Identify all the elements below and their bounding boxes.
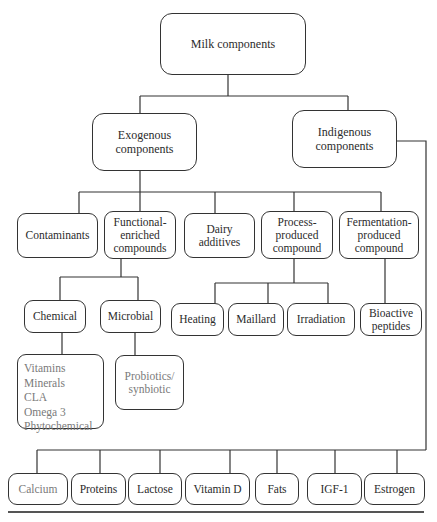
node-label: Probiotics/ synbiotic [125,370,175,396]
node-chemical: Chemical [24,300,86,333]
node-label: Exogenous components [116,128,174,156]
node-label: Vitamin D [193,483,241,496]
bottom-rule-divider [8,511,424,513]
node-lactose: Lactose [128,473,182,505]
node-igf-1: IGF-1 [307,473,362,505]
node-process-produced-compound: Process- produced compound [261,211,333,259]
node-label: Fats [267,483,286,496]
node-chemical-items: Vitamins Minerals CLA Omega 3 Phytochemi… [17,354,104,429]
node-fats: Fats [255,473,299,505]
node-label: Process- produced compound [273,216,322,255]
node-label: Irradiation [297,313,346,326]
node-label: Functional- enriched compounds [113,216,166,255]
node-label: Calcium [19,483,58,496]
node-label: Contaminants [26,229,90,242]
node-fermentation-produced-compound: Fermentation- produced compound [339,211,419,259]
node-microbial: Microbial [100,300,161,333]
node-proteins: Proteins [71,473,126,505]
node-vitamin-d: Vitamin D [185,473,250,505]
node-calcium: Calcium [8,473,68,505]
node-label: Bioactive peptides [369,307,413,333]
connector-lines [0,0,437,522]
node-label: Fermentation- produced compound [346,216,411,255]
node-maillard: Maillard [228,303,284,336]
node-bioactive-peptides: Bioactive peptides [360,303,422,336]
node-dairy-additives: Dairy additives [184,213,255,258]
node-contaminants: Contaminants [17,213,98,258]
node-label: Vitamins Minerals CLA Omega 3 Phytochemi… [24,361,92,434]
node-label: Estrogen [374,483,415,496]
node-label: Dairy additives [199,223,241,249]
node-label: Heating [179,313,215,326]
node-label: Milk components [191,37,275,51]
node-functional-enriched-compounds: Functional- enriched compounds [104,211,176,259]
milk-components-diagram: Milk components Exogenous components Ind… [0,0,437,522]
node-exogenous-components: Exogenous components [92,113,197,171]
node-milk-components: Milk components [160,13,306,75]
node-microbial-items: Probiotics/ synbiotic [115,355,184,410]
node-irradiation: Irradiation [287,303,355,336]
node-label: Proteins [80,483,118,496]
node-label: Indigenous components [316,125,374,153]
node-label: IGF-1 [320,483,348,496]
node-label: Microbial [108,310,153,323]
node-heating: Heating [171,303,224,336]
node-estrogen: Estrogen [364,473,425,505]
node-label: Lactose [137,483,173,496]
node-indigenous-components: Indigenous components [292,110,397,168]
node-label: Chemical [33,310,77,323]
node-label: Maillard [236,313,276,326]
